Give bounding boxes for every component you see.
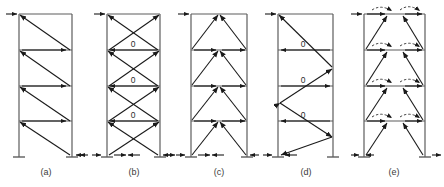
moment-arc-l1-right [400, 114, 420, 118]
figure-canvas: 0 0 0 [0, 0, 444, 187]
v-brace-1-left [366, 123, 387, 155]
caption-panel-c: (c) [199, 167, 239, 177]
moment-arc-l1-left [372, 114, 392, 118]
panel-e [0, 0, 444, 187]
panel-e-moment-arcs [372, 7, 420, 118]
moment-arc-roof-right [400, 7, 420, 11]
caption-panel-e: (e) [374, 167, 414, 177]
moment-arc-l2-left [372, 79, 392, 83]
v-brace-1-right [403, 123, 423, 155]
caption-panel-b: (b) [114, 167, 154, 177]
moment-arc-l3-right [400, 43, 420, 47]
caption-panel-d: (d) [286, 167, 326, 177]
moment-arc-roof-left [372, 7, 392, 11]
caption-panel-a: (a) [26, 167, 66, 177]
moment-arc-l2-right [400, 79, 420, 83]
moment-arc-l3-left [372, 43, 392, 47]
